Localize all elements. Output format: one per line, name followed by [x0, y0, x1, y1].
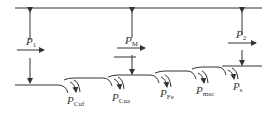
pmec-loss-curl — [202, 71, 208, 83]
label-ps: Ps — [233, 81, 242, 94]
label-pmec: Pmec — [196, 85, 214, 98]
pfe-loss-arrow — [161, 77, 167, 87]
ps-loss-arrow — [228, 70, 234, 79]
label-p2: P2 — [236, 29, 246, 42]
base-seg-5 — [192, 67, 226, 75]
pcuf-loss-curl — [74, 80, 80, 92]
pcua-loss-arrow — [114, 79, 120, 89]
pfe-loss-curl — [165, 75, 171, 87]
label-pcuf: PCuf — [67, 95, 84, 108]
power-flow-diagram — [0, 0, 272, 113]
pcua-loss-curl — [118, 77, 124, 89]
label-pfe: PFe — [160, 88, 174, 101]
label-pcua: PCua — [112, 92, 130, 105]
base-seg-4 — [155, 71, 196, 79]
pcuf-loss-arrow — [70, 82, 76, 92]
base-seg-1 — [15, 85, 68, 93]
base-seg-3 — [108, 75, 159, 83]
base-seg-2 — [64, 78, 112, 86]
ps-loss-curl — [232, 68, 238, 79]
pmec-loss-arrow — [198, 73, 204, 83]
label-pm: PM — [125, 35, 138, 48]
label-p1: P1 — [26, 36, 36, 49]
